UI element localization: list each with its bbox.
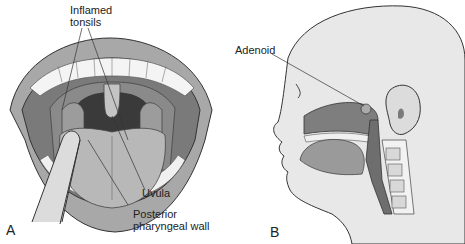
panel-b-sagittal-section: Adenoid B [232, 0, 465, 244]
label-posterior-pharyngeal-wall: Posterior pharyngeal wall [133, 208, 209, 232]
label-posterior-line1: Posterior [133, 208, 209, 220]
panel-a-open-mouth: Inflamed tonsils Uvula Posterior pharyng… [0, 0, 232, 244]
label-inflamed-tonsils: Inflamed tonsils [70, 4, 112, 28]
panel-letter-b: B [270, 224, 279, 240]
panel-letter-a: A [6, 222, 15, 238]
label-inflamed-tonsils-line2: tonsils [70, 16, 112, 28]
label-inflamed-tonsils-line1: Inflamed [70, 4, 112, 16]
head-section-illustration [232, 0, 465, 244]
label-uvula: Uvula [142, 187, 170, 199]
label-posterior-line2: pharyngeal wall [133, 220, 209, 232]
label-adenoid: Adenoid [235, 44, 275, 56]
